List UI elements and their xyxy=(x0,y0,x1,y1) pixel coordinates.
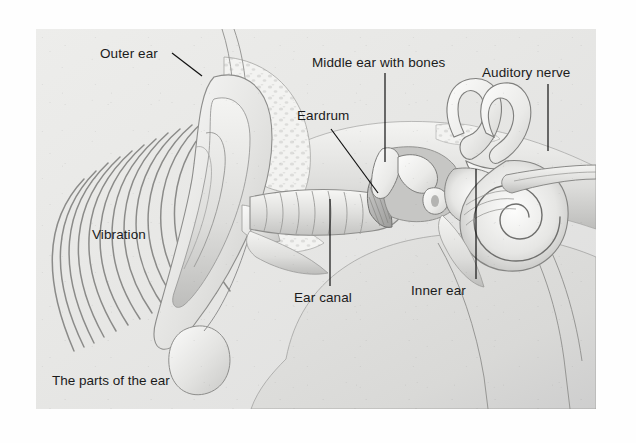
ear-lobe xyxy=(169,326,230,395)
figure-caption: The parts of the ear xyxy=(52,374,170,388)
label-middle-ear-with-bones: Middle ear with bones xyxy=(312,56,445,70)
label-ear-canal: Ear canal xyxy=(294,291,352,305)
label-eardrum: Eardrum xyxy=(297,109,349,123)
ear-diagram-plate xyxy=(36,29,596,409)
page-background: Outer ear Middle ear with bones Auditory… xyxy=(0,0,636,443)
label-outer-ear: Outer ear xyxy=(100,47,158,61)
label-auditory-nerve: Auditory nerve xyxy=(482,66,570,80)
label-inner-ear: Inner ear xyxy=(411,284,466,298)
label-vibration: Vibration xyxy=(92,228,146,242)
stapes-footplate-window xyxy=(431,195,439,207)
ear-anatomy-illustration xyxy=(36,29,596,409)
